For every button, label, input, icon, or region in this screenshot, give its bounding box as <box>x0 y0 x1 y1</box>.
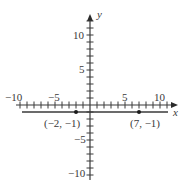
point-neg2-neg1 <box>74 110 78 114</box>
x-tick-label-10: 10 <box>154 91 166 103</box>
x-tick-label-5: 5 <box>122 91 128 103</box>
y-tick-label-neg5: −5 <box>74 133 86 145</box>
y-axis-arrow-icon <box>87 14 93 21</box>
x-tick-label-neg5: −5 <box>48 91 60 103</box>
point-7-neg1 <box>137 110 141 114</box>
point-label-7-neg1: (7, −1) <box>130 117 160 130</box>
y-tick-label-neg10: −10 <box>68 167 86 179</box>
point-label-neg2-neg1: (−2, −1) <box>44 117 81 130</box>
y-tick-label-10: 10 <box>73 29 85 41</box>
coordinate-plane: y x −10 −5 5 10 10 5 −5 −10 (−2, −1) (7,… <box>0 0 187 193</box>
x-axis-label: x <box>172 106 178 118</box>
x-tick-label-neg10: −10 <box>5 91 23 103</box>
y-tick-label-5: 5 <box>79 63 85 75</box>
y-axis-label: y <box>96 8 102 20</box>
